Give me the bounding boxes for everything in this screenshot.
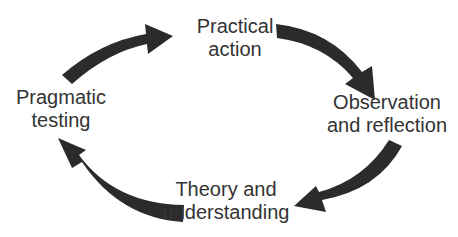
node-pragmatic-testing: Pragmatic testing (16, 86, 106, 132)
node-label-line: testing (16, 109, 106, 132)
node-label-line: and reflection (327, 114, 447, 137)
node-label-line: action (197, 38, 274, 61)
node-theory-understanding: Theory and understanding (163, 178, 290, 224)
arrow-icon-testing-to-action (62, 24, 173, 84)
node-label-line: Observation (327, 91, 447, 114)
cycle-diagram: Practical action Observation and reflect… (0, 0, 458, 237)
node-label-line: Pragmatic (16, 86, 106, 109)
node-label-line: Practical (197, 15, 274, 38)
arrow-icon-action-to-observation (276, 24, 375, 100)
node-label-line: understanding (163, 201, 290, 224)
node-observation-reflection: Observation and reflection (327, 91, 447, 137)
arrow-icon-observation-to-theory (294, 140, 402, 212)
node-label-line: Theory and (163, 178, 290, 201)
node-practical-action: Practical action (197, 15, 274, 61)
